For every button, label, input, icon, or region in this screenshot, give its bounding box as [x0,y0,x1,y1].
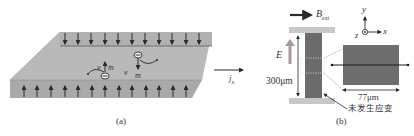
axis-y-label: y [362,5,366,14]
sample-bar [305,33,322,98]
efield-label: E [276,50,282,60]
top-electrode [289,27,335,33]
spin-label-1: m [108,64,114,72]
diagram-canvas [0,0,414,136]
axis-z-label: z [355,32,358,40]
caption-b: (b) [336,117,347,126]
width-label: 77μm [358,93,379,102]
bext-label: Bext [316,9,329,21]
current-label: jx [229,74,234,85]
height-label: 300μm [266,77,293,87]
velocity-label-2: v [124,69,128,77]
axis-x-label: x [383,27,387,36]
spin-label-2: m [135,72,141,80]
bottom-electrode [289,98,335,104]
annotation-label: 未发生应变 [348,104,393,113]
axes-icon [362,17,381,35]
velocity-label-1: v [97,64,101,72]
caption-a: (a) [116,117,126,126]
